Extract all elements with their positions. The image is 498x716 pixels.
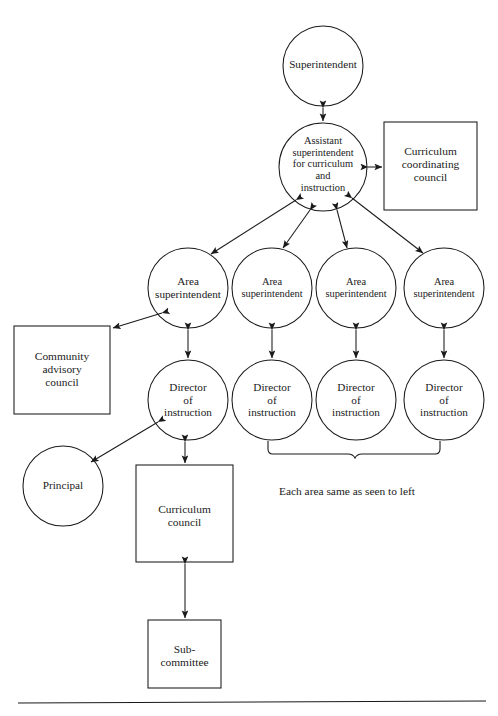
node-shape-superintendent <box>283 26 363 106</box>
node-shape-curriculum-council <box>136 465 233 562</box>
node-shape-community-advisory-council <box>14 326 110 414</box>
connector-assistant-to-area-3 <box>337 210 347 248</box>
node-shape-assistant-superintendent <box>279 123 367 211</box>
organization-chart-page: Superintendent Assistantsuperintendentfo… <box>0 0 498 716</box>
node-shape-sub-committee <box>148 620 221 688</box>
node-shape-curriculum-coordinating-council <box>384 122 477 210</box>
node-shape-principal <box>23 446 103 526</box>
diagram-canvas <box>0 0 498 716</box>
node-shape-director-of-instruction-3 <box>316 360 396 440</box>
connector-director-1-to-principal <box>91 422 158 462</box>
connector-assistant-to-area-1 <box>211 200 296 254</box>
connector-assistant-to-area-2 <box>283 210 310 248</box>
node-shape-director-of-instruction-4 <box>404 360 484 440</box>
brace-under-right-directors <box>268 441 440 458</box>
connector-area-1-to-community-advisory-council <box>113 313 162 328</box>
node-shape-area-superintendent-2 <box>232 248 312 328</box>
node-shape-director-of-instruction-2 <box>232 360 312 440</box>
caption-each-area-same-as-seen-to-left: Each area same as seen to left <box>279 485 415 497</box>
node-shape-area-superintendent-4 <box>404 248 484 328</box>
node-shape-director-of-instruction-1 <box>148 360 228 440</box>
connector-assistant-to-area-4 <box>352 198 423 253</box>
node-shape-area-superintendent-1 <box>148 248 228 328</box>
footer-rule <box>18 701 486 703</box>
node-shape-area-superintendent-3 <box>316 248 396 328</box>
